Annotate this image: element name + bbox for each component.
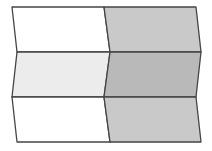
tile-r2c2 — [104, 52, 201, 97]
tile-r2c1 — [12, 52, 110, 97]
tile-r1c2 — [104, 7, 201, 52]
tile-r1c1 — [12, 7, 110, 52]
tile-r3c1 — [12, 97, 110, 142]
tessellation-diagram — [0, 0, 212, 151]
tile-r3c2 — [104, 97, 201, 142]
